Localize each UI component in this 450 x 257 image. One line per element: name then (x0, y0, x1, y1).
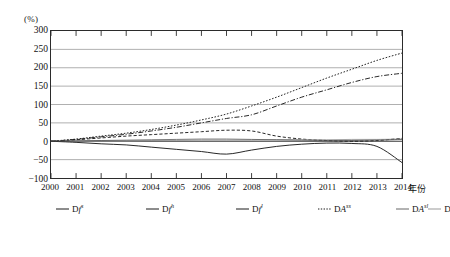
x-tick-label: 2000 (41, 182, 59, 192)
legend-label: DAls (444, 203, 450, 214)
x-axis-title: 年份 (408, 182, 426, 195)
y-tick-label: 150 (2, 81, 48, 91)
x-axis-tick-labels: 2000200120022003200420052006200720082009… (50, 182, 403, 196)
chart-canvas (51, 31, 402, 178)
y-tick-label: 300 (2, 25, 48, 35)
x-tick-label: 2011 (319, 182, 337, 192)
legend-line-swatch (396, 205, 409, 213)
legend-item[interactable]: Dfs (56, 203, 146, 215)
x-tick-label: 2006 (192, 182, 210, 192)
legend-line-swatch (146, 205, 159, 213)
legend-label: Dfl (252, 203, 263, 214)
x-tick-label: 2012 (344, 182, 362, 192)
x-tick-label: 2001 (66, 182, 84, 192)
legend-item[interactable]: Dfl (236, 203, 318, 215)
x-tick-label: 2007 (218, 182, 236, 192)
legend-line-swatch (236, 205, 249, 213)
legend-item[interactable]: DAsl (396, 203, 428, 215)
y-tick-label: 0 (2, 137, 48, 147)
legend-label: Dfh (162, 203, 174, 214)
y-axis-unit-label: (%) (24, 14, 38, 24)
chart-page: (%) 300250200150100500−50−100 2000200120… (0, 0, 450, 257)
legend-label: Dfs (72, 203, 83, 214)
y-tick-label: 200 (2, 62, 48, 72)
chart-legend: DfsDfhDflDAssDAslDAlsDAlssDAllDPsDSgDPh总… (56, 203, 396, 239)
x-tick-label: 2005 (167, 182, 185, 192)
x-tick-label: 2004 (142, 182, 160, 192)
legend-item[interactable]: DAss (318, 203, 396, 215)
legend-line-swatch (428, 205, 441, 213)
legend-line-swatch (318, 205, 331, 213)
y-axis-tick-labels: 300250200150100500−50−100 (0, 30, 48, 179)
series-line (51, 53, 402, 141)
legend-item[interactable]: DAls (428, 203, 450, 215)
legend-line-swatch (56, 205, 69, 213)
x-tick-label: 2002 (91, 182, 109, 192)
series-line (51, 73, 402, 141)
y-tick-label: −50 (2, 155, 48, 165)
x-tick-label: 2009 (268, 182, 286, 192)
x-tick-label: 2008 (243, 182, 261, 192)
legend-label: DAss (334, 203, 351, 214)
legend-item[interactable]: Dfh (146, 203, 236, 215)
x-tick-label: 2003 (117, 182, 135, 192)
y-tick-label: 50 (2, 118, 48, 128)
y-tick-label: 250 (2, 44, 48, 54)
legend-label: DAsl (412, 203, 428, 214)
x-tick-label: 2013 (369, 182, 387, 192)
x-tick-label: 2010 (293, 182, 311, 192)
y-tick-label: 100 (2, 100, 48, 110)
plot-area (50, 30, 403, 179)
